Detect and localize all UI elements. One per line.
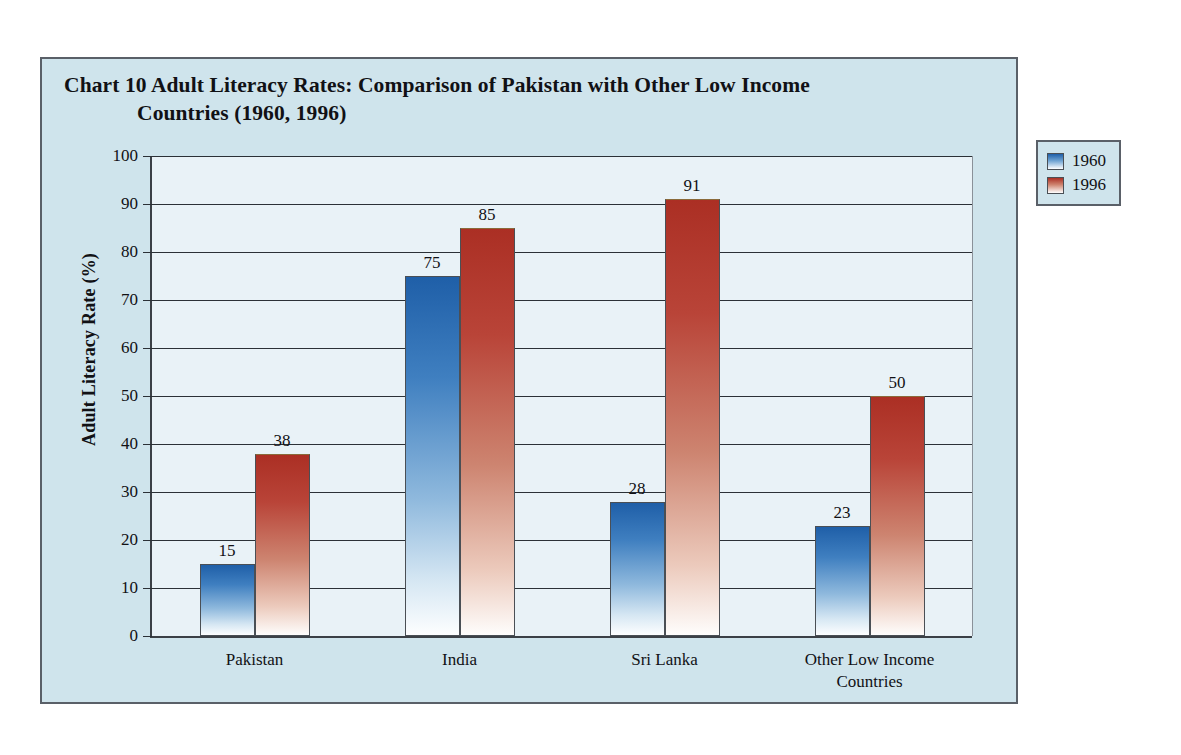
- x-axis-category-label-line: India: [357, 649, 562, 671]
- gridline: [152, 252, 972, 253]
- gridline: [152, 300, 972, 301]
- y-axis-tick-label: 30: [92, 482, 138, 502]
- y-axis-tick: [143, 252, 152, 253]
- x-axis-category-label: Sri Lanka: [562, 649, 767, 671]
- x-axis-category-label-line: Countries: [767, 671, 972, 693]
- bar: 85: [460, 228, 515, 636]
- x-axis-category-label-line: Other Low Income: [767, 649, 972, 671]
- y-axis-tick-label: 70: [92, 290, 138, 310]
- bar-value-label: 23: [834, 503, 851, 523]
- y-axis-tick-label: 50: [92, 386, 138, 406]
- bar-value-label: 15: [219, 541, 236, 561]
- y-axis-tick-label: 90: [92, 194, 138, 214]
- y-axis-tick: [143, 492, 152, 493]
- gridline: [152, 156, 972, 157]
- bar-value-label: 91: [684, 176, 701, 196]
- bar-value-label: 75: [424, 253, 441, 273]
- y-axis-tick-label: 60: [92, 338, 138, 358]
- chart-legend: 1960 1996: [1036, 140, 1121, 206]
- y-axis-tick: [143, 588, 152, 589]
- gridline: [152, 204, 972, 205]
- y-axis-tick-labels: 0102030405060708090100: [90, 156, 138, 636]
- y-axis-tick: [143, 156, 152, 157]
- y-axis-tick-label: 80: [92, 242, 138, 262]
- bar-value-label: 85: [479, 205, 496, 225]
- bar: 50: [870, 396, 925, 636]
- y-axis-tick-label: 40: [92, 434, 138, 454]
- x-axis-category-label: Other Low IncomeCountries: [767, 649, 972, 693]
- chart-title-line-2: Countries (1960, 1996): [64, 99, 964, 127]
- y-axis-tick-label: 100: [92, 146, 138, 166]
- legend-swatch-1960-icon: [1047, 153, 1064, 170]
- plot-right-border: [972, 156, 973, 636]
- plot-area: 0102030405060708090100 1538758528912350 …: [150, 156, 972, 638]
- chart-frame: Chart 10 Adult Literacy Rates: Compariso…: [40, 57, 1018, 704]
- y-axis-tick: [143, 204, 152, 205]
- gridline: [152, 396, 972, 397]
- x-axis-category-label: India: [357, 649, 562, 671]
- y-axis-tick-label: 20: [92, 530, 138, 550]
- y-axis-tick: [143, 636, 152, 637]
- y-axis-tick-label: 0: [92, 626, 138, 646]
- gridline: [152, 348, 972, 349]
- x-axis-category-label-line: Pakistan: [152, 649, 357, 671]
- legend-item: 1960: [1047, 149, 1106, 173]
- bar: 23: [815, 526, 870, 636]
- legend-label-1996: 1996: [1072, 175, 1106, 195]
- y-axis-tick: [143, 540, 152, 541]
- legend-label-1960: 1960: [1072, 151, 1106, 171]
- bar: 28: [610, 502, 665, 636]
- bar: 15: [200, 564, 255, 636]
- x-axis-category-label: Pakistan: [152, 649, 357, 671]
- y-axis-tick-label: 10: [92, 578, 138, 598]
- y-axis-tick: [143, 444, 152, 445]
- bar: 91: [665, 199, 720, 636]
- bar: 75: [405, 276, 460, 636]
- legend-swatch-1996-icon: [1047, 177, 1064, 194]
- bar-value-label: 50: [889, 373, 906, 393]
- y-axis-tick: [143, 348, 152, 349]
- y-axis-tick: [143, 396, 152, 397]
- chart-title: Chart 10 Adult Literacy Rates: Compariso…: [64, 71, 964, 128]
- legend-item: 1996: [1047, 173, 1106, 197]
- x-axis-category-label-line: Sri Lanka: [562, 649, 767, 671]
- chart-title-line-1: Chart 10 Adult Literacy Rates: Compariso…: [64, 73, 810, 97]
- bar-value-label: 28: [629, 479, 646, 499]
- bar: 38: [255, 454, 310, 636]
- bar-value-label: 38: [274, 431, 291, 451]
- y-axis-tick: [143, 300, 152, 301]
